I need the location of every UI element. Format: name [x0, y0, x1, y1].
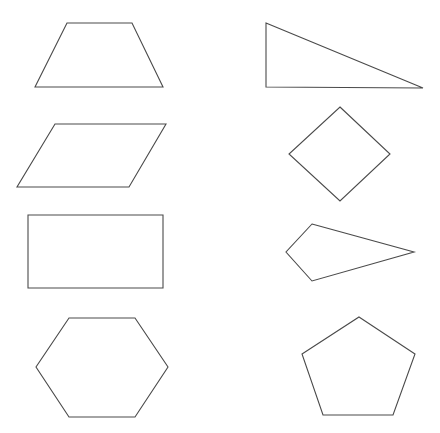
background — [0, 0, 440, 433]
shapes-canvas — [0, 0, 440, 433]
